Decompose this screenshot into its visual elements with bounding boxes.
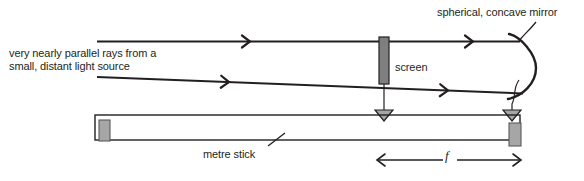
metre-stick-body (95, 115, 520, 140)
screen-block (379, 37, 389, 84)
optics-diagram-svg (0, 0, 584, 181)
mirror-label: spherical, concave mirror (437, 6, 557, 19)
lower-ray-line (97, 77, 523, 94)
light-source-label: very nearly parallel rays from a small, … (9, 47, 156, 73)
concave-mirror-arc (508, 34, 536, 99)
metre-stick-slider-right[interactable] (509, 123, 521, 146)
metre-stick-slider-left[interactable] (99, 120, 110, 141)
metre-stick-label: metre stick (203, 148, 255, 161)
diagram-canvas: very nearly parallel rays from a small, … (0, 0, 584, 181)
focal-length-label: f (445, 149, 449, 162)
mirror-leader-line (519, 22, 536, 41)
screen-label: screen (395, 61, 427, 74)
